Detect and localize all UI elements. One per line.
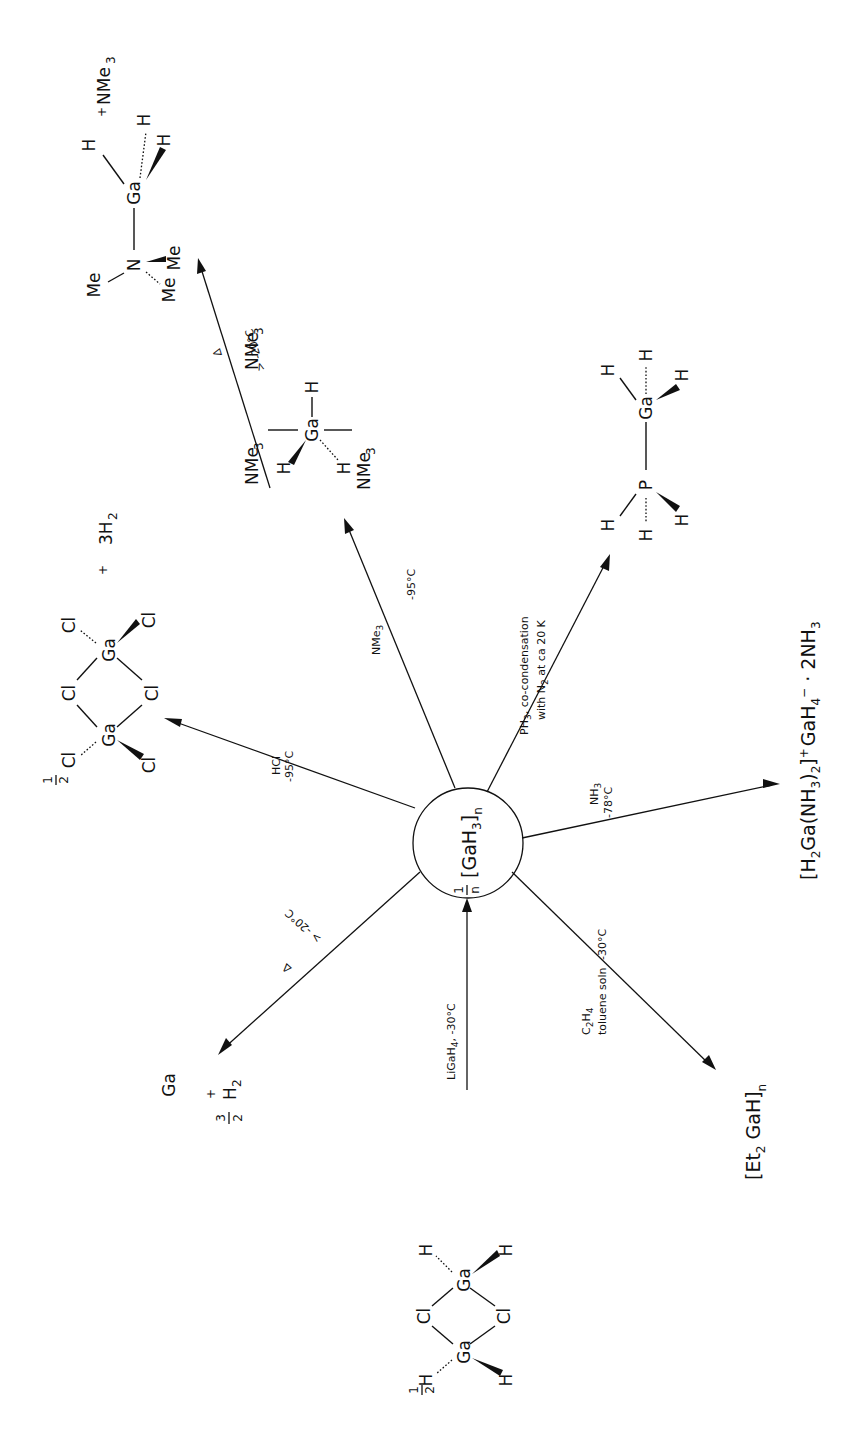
svg-text:Δ: Δ bbox=[279, 960, 294, 975]
svg-text:H: H bbox=[416, 1374, 436, 1387]
svg-text:2: 2 bbox=[57, 776, 71, 784]
svg-text:3: 3 bbox=[364, 447, 378, 455]
svg-text:2: 2 bbox=[230, 1079, 244, 1087]
product-h2ga-nh3-2: [H2Ga(NH3)2]+GaH4− · 2NH3 bbox=[797, 621, 823, 880]
svg-text:H: H bbox=[220, 1087, 240, 1100]
svg-text:HCl: HCl bbox=[270, 756, 283, 775]
arrow-nme3: NMe3 -95°C bbox=[344, 518, 455, 788]
svg-text:1: 1 bbox=[41, 776, 55, 784]
cond-nh3: NH3 bbox=[588, 783, 603, 805]
svg-text:H: H bbox=[672, 514, 692, 527]
svg-text:H: H bbox=[598, 519, 618, 532]
svg-text:H: H bbox=[598, 364, 618, 377]
cond-ph3-line1: PH3, co-condensation bbox=[518, 616, 533, 735]
cond-nme3: NMe3 bbox=[370, 625, 385, 655]
svg-text:H: H bbox=[302, 381, 322, 394]
svg-text:H: H bbox=[274, 462, 294, 475]
svg-text:Ga: Ga bbox=[159, 1073, 179, 1097]
arrow-ligah4: LiGaH4, -30°C bbox=[445, 898, 472, 1090]
cond-ligah4: LiGaH4, -30°C bbox=[445, 1003, 460, 1080]
svg-text:NMe: NMe bbox=[94, 67, 114, 105]
fraction-den: n bbox=[468, 886, 482, 894]
arrow-ph3: PH3, co-condensation with N2 at ca 20 K bbox=[487, 554, 610, 792]
svg-text:H: H bbox=[672, 369, 692, 382]
svg-text:3: 3 bbox=[252, 442, 266, 450]
svg-text:H: H bbox=[134, 114, 154, 127]
svg-text:2: 2 bbox=[106, 512, 120, 520]
svg-text:-95°C: -95°C bbox=[283, 751, 296, 782]
svg-text:Me: Me bbox=[164, 245, 184, 270]
svg-text:H: H bbox=[79, 139, 99, 152]
product-et2gah-n: [Et2 GaH]n bbox=[742, 1084, 769, 1180]
svg-text:H: H bbox=[416, 1244, 436, 1257]
svg-text:Cl: Cl bbox=[139, 612, 159, 629]
product-me3n-gah3: N Ga Me Me Me H H H + NMe 3 bbox=[79, 56, 184, 302]
arrow-nh3: NH3 -78°C bbox=[522, 779, 780, 838]
svg-text:+: + bbox=[96, 565, 110, 575]
svg-text:Me: Me bbox=[159, 277, 179, 302]
center-species: 1 n [GaH3]n bbox=[413, 788, 523, 898]
fraction-num: 1 bbox=[452, 886, 466, 894]
svg-text:H: H bbox=[154, 134, 174, 147]
svg-text:Cl: Cl bbox=[414, 1308, 434, 1325]
svg-text:-78°C: -78°C bbox=[602, 787, 615, 818]
reactant-chlorogallane-dimer: 1 2 Ga Ga Cl Cl H H H H bbox=[407, 1244, 516, 1395]
arrow-nme3-decomp: Δ > -20°C bbox=[197, 258, 270, 488]
svg-text:H: H bbox=[636, 529, 656, 542]
svg-text:> -20°C: > -20°C bbox=[282, 906, 324, 945]
svg-text:Cl: Cl bbox=[59, 685, 79, 702]
svg-text:Ga: Ga bbox=[99, 723, 119, 747]
svg-text:Me: Me bbox=[84, 272, 104, 297]
svg-text:-30°C: -30°C bbox=[596, 929, 609, 960]
svg-text:Cl: Cl bbox=[59, 617, 79, 634]
arrow-hcl: HCl -95°C bbox=[164, 718, 415, 808]
svg-text:3: 3 bbox=[104, 56, 118, 64]
svg-text:3: 3 bbox=[214, 1114, 228, 1122]
svg-text:Cl: Cl bbox=[494, 1308, 514, 1325]
nh3-product-formula: [H2Ga(NH3)2]+GaH4− · 2NH3 bbox=[797, 621, 823, 880]
arrow-decomposition: Δ > -20°C bbox=[218, 872, 420, 1055]
svg-text:Cl: Cl bbox=[59, 752, 79, 769]
svg-text:+: + bbox=[95, 107, 109, 117]
svg-text:Ga: Ga bbox=[302, 418, 322, 442]
svg-text:+: + bbox=[204, 1089, 218, 1099]
reaction-scheme: 1 n [GaH3]n LiGaH4, -30°C 1 2 Ga Ga Cl C… bbox=[0, 0, 850, 1430]
svg-text:Cl: Cl bbox=[142, 685, 162, 702]
svg-text:toluene soln: toluene soln bbox=[596, 967, 609, 1035]
cond-ethylene-line1: C2H4 bbox=[580, 1007, 595, 1035]
product-ga2cl6: 1 2 Ga Ga Cl Cl Cl Cl Cl Cl + 3H 2 bbox=[41, 512, 162, 785]
product-ga-h2: Ga + 3 2 H 2 bbox=[159, 1073, 245, 1124]
svg-text:2: 2 bbox=[231, 1114, 245, 1122]
svg-text:NMe: NMe bbox=[354, 452, 374, 490]
svg-text:N: N bbox=[124, 259, 144, 272]
ethylene-product-formula: [Et2 GaH]n bbox=[742, 1084, 769, 1180]
svg-text:Ga: Ga bbox=[636, 396, 656, 420]
svg-text:-95°C: -95°C bbox=[405, 569, 418, 600]
svg-text:H: H bbox=[636, 349, 656, 362]
svg-text:Δ: Δ bbox=[210, 346, 225, 357]
svg-text:H: H bbox=[496, 1374, 516, 1387]
center-formula: [GaH3]n bbox=[458, 807, 485, 878]
product-h3p-gah3: P Ga H H H H H H bbox=[598, 349, 692, 542]
svg-text:3H: 3H bbox=[96, 521, 116, 545]
cond-ph3-line2: with N2 at ca 20 K bbox=[535, 619, 550, 720]
svg-text:P: P bbox=[636, 480, 656, 490]
svg-text:Ga: Ga bbox=[99, 638, 119, 662]
svg-text:Cl: Cl bbox=[139, 757, 159, 774]
svg-text:H: H bbox=[334, 462, 354, 475]
arrow-ethylene: C2H4 toluene soln -30°C bbox=[512, 872, 716, 1070]
svg-text:Ga: Ga bbox=[124, 181, 144, 205]
